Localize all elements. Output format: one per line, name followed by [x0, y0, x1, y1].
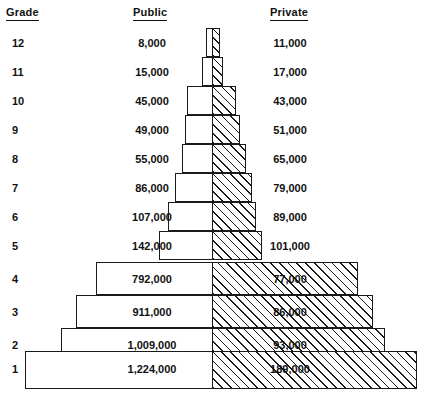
grade-label: 2 [12, 339, 18, 351]
bar-private [212, 57, 223, 86]
value-label-public: 45,000 [110, 95, 194, 107]
value-label-private: 51,000 [248, 124, 332, 136]
value-label-private: 77,000 [248, 273, 332, 285]
grade-label: 7 [12, 182, 18, 194]
value-label-public: 49,000 [110, 124, 194, 136]
value-label-public: 1,224,000 [110, 363, 194, 375]
value-label-private: 11,000 [248, 37, 332, 49]
value-label-public: 86,000 [110, 182, 194, 194]
value-label-private: 93,000 [248, 339, 332, 351]
value-label-private: 43,000 [248, 95, 332, 107]
bar-private [212, 144, 246, 173]
grade-label: 9 [12, 124, 18, 136]
grade-label: 5 [12, 240, 18, 252]
value-label-private: 89,000 [248, 211, 332, 223]
column-header-grade: Grade [6, 6, 39, 21]
value-label-public: 107,000 [110, 211, 194, 223]
grade-label: 3 [12, 306, 18, 318]
grade-label: 10 [12, 95, 24, 107]
value-label-public: 792,000 [110, 273, 194, 285]
value-label-private: 86,000 [248, 306, 332, 318]
value-label-public: 142,000 [110, 240, 194, 252]
value-label-public: 15,000 [110, 66, 194, 78]
value-label-public: 911,000 [110, 306, 194, 318]
grade-label: 12 [12, 37, 24, 49]
value-label-private: 17,000 [248, 66, 332, 78]
value-label-public: 55,000 [110, 153, 194, 165]
value-label-private: 65,000 [248, 153, 332, 165]
grade-label: 1 [12, 363, 18, 375]
bar-private [212, 28, 220, 57]
value-label-public: 8,000 [110, 37, 194, 49]
bar-private [212, 173, 252, 202]
bar-private [212, 86, 236, 115]
grade-label: 8 [12, 153, 18, 165]
bar-public [202, 57, 212, 86]
column-header-private: Private [270, 6, 308, 21]
column-header-public: Public [133, 6, 167, 21]
value-label-private: 101,000 [248, 240, 332, 252]
grade-label: 4 [12, 273, 18, 285]
grade-label: 11 [12, 66, 24, 78]
pyramid-chart-figure: Grade Public Private 128,00011,0001115,0… [0, 0, 431, 397]
bar-private [212, 115, 240, 144]
value-label-private: 189,000 [248, 363, 332, 375]
value-label-public: 1,009,000 [110, 339, 194, 351]
grade-label: 6 [12, 211, 18, 223]
value-label-private: 79,000 [248, 182, 332, 194]
